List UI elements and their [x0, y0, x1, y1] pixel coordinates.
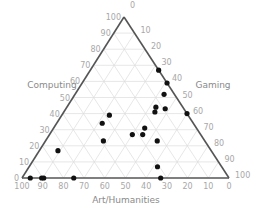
- data-point: [101, 138, 106, 143]
- grid-line-gaming: [43, 33, 135, 178]
- axis-label-art-humanities: Art/Humanities: [92, 195, 160, 205]
- tick-art: 50: [120, 182, 130, 191]
- data-point: [161, 92, 166, 97]
- grid-line-gaming: [208, 162, 218, 178]
- tick-art: 70: [79, 182, 89, 191]
- tick-computing: 20: [29, 142, 39, 151]
- tick-art: 90: [38, 182, 48, 191]
- grid-line-gaming: [84, 65, 155, 178]
- tick-computing: 40: [50, 110, 60, 119]
- ternary-chart: 0102030405060708090100010203040506070809…: [0, 0, 263, 214]
- tick-gaming: 80: [214, 139, 224, 148]
- axis-label-gaming: Gaming: [195, 80, 230, 90]
- data-point: [158, 175, 163, 180]
- data-point: [184, 111, 189, 116]
- tick-art: 60: [100, 182, 110, 191]
- tick-gaming: 10: [141, 26, 151, 35]
- axis-label-computing: Computing: [27, 80, 76, 90]
- tick-gaming: 100: [235, 171, 250, 180]
- tick-gaming: 40: [172, 74, 182, 83]
- data-point: [55, 148, 60, 153]
- tick-computing: 50: [60, 94, 70, 103]
- data-point: [130, 132, 135, 137]
- grid-lines: [32, 33, 218, 178]
- data-point: [153, 105, 158, 110]
- data-point: [71, 175, 76, 180]
- data-point: [100, 121, 105, 126]
- tick-computing: 70: [80, 61, 90, 70]
- tick-art: 10: [203, 182, 213, 191]
- tick-computing: 90: [101, 29, 111, 38]
- tick-art: 20: [183, 182, 193, 191]
- tick-gaming: 90: [225, 155, 235, 164]
- data-point: [152, 109, 157, 114]
- data-point: [140, 132, 145, 137]
- tick-gaming: 20: [151, 42, 161, 51]
- grid-line-art: [114, 33, 209, 178]
- data-point: [155, 164, 160, 169]
- tick-gaming: 50: [183, 91, 193, 100]
- grid-line-art: [93, 65, 166, 178]
- tick-computing: 10: [19, 158, 29, 167]
- grid-line-gaming: [126, 98, 177, 179]
- tick-art: 100: [14, 182, 29, 191]
- data-point: [28, 175, 33, 180]
- data-point: [41, 175, 46, 180]
- data-point: [164, 80, 169, 85]
- tick-gaming: 60: [193, 107, 203, 116]
- tick-gaming: 30: [162, 58, 172, 67]
- data-point: [156, 68, 161, 73]
- data-point: [107, 113, 112, 118]
- tick-art: 0: [226, 182, 231, 191]
- tick-computing: 100: [106, 13, 121, 22]
- data-point: [142, 125, 147, 130]
- tick-gaming: 0: [130, 1, 135, 10]
- tick-computing: 80: [90, 45, 100, 54]
- tick-art: 80: [58, 182, 68, 191]
- data-point: [163, 106, 168, 111]
- tick-art: 40: [141, 182, 151, 191]
- tick-gaming: 70: [204, 123, 214, 132]
- tick-art: 30: [162, 182, 172, 191]
- tick-computing: 30: [39, 126, 49, 135]
- data-point: [155, 138, 160, 143]
- grid-line-art: [73, 98, 126, 179]
